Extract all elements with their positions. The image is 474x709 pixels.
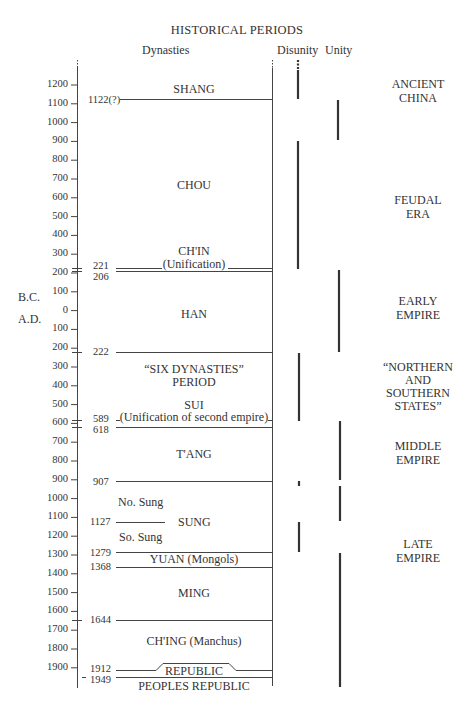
axis-tick-label: 400 — [32, 379, 68, 390]
dynasty-han: HAN — [144, 307, 244, 322]
axis-tick-label: 1200 — [32, 78, 68, 89]
year-206: 206 — [93, 271, 109, 282]
axis-tick-label: 600 — [32, 191, 68, 202]
year-1644: 1644 — [90, 614, 111, 625]
year-1912: 1912 — [90, 663, 111, 674]
dynasty-peoples-republic: PEOPLES REPUBLIC — [134, 679, 254, 694]
axis-tick-label: 1100 — [32, 510, 68, 521]
bc-label: B.C. — [18, 290, 40, 305]
era-ancient-china: ANCIENTCHINA — [368, 77, 468, 105]
axis-tick-label: 1600 — [32, 604, 68, 615]
dynasty-sung: SUNG — [178, 515, 211, 530]
year-1368: 1368 — [90, 561, 111, 572]
axis-tick-label: 700 — [32, 435, 68, 446]
axis-tick-label: 200 — [32, 266, 68, 277]
year-222: 222 — [93, 346, 109, 357]
year-907: 907 — [93, 476, 109, 487]
axis-tick-label: 500 — [32, 210, 68, 221]
axis-tick-label: 200 — [32, 341, 68, 352]
dynasty-yuan: YUAN (Mongols) — [134, 552, 254, 567]
era-late-empire: LATEEMPIRE — [368, 537, 468, 565]
dynasty-chou: CHOU — [144, 178, 244, 193]
axis-tick-label: 1300 — [32, 548, 68, 559]
axis-tick-label: 500 — [32, 398, 68, 409]
axis-tick-label: 1800 — [32, 642, 68, 653]
axis-tick-label: 600 — [32, 416, 68, 427]
axis-tick-label: 1100 — [32, 97, 68, 108]
dynasty-ming: MING — [144, 586, 244, 601]
era-northern-southern-states: “NORTHERNAND SOUTHERNSTATES” — [368, 361, 468, 413]
year-618: 618 — [93, 424, 109, 435]
dynasty-republic: REPUBLIC — [144, 664, 244, 679]
axis-tick-label: 800 — [32, 153, 68, 164]
axis-tick-label: 800 — [32, 454, 68, 465]
dynasty-chin-note: (Unification) — [144, 257, 244, 272]
ad-label: A.D. — [18, 312, 41, 327]
dynasty-no-sung: No. Sung — [118, 495, 163, 510]
era-feudal: FEUDALERA — [368, 193, 468, 221]
axis-tick-label: 1900 — [32, 661, 68, 672]
dynasty-so-sung: So. Sung — [119, 530, 162, 545]
axis-tick-label: 1000 — [32, 492, 68, 503]
year-1122: 1122(?) — [88, 94, 120, 105]
year-589: 589 — [93, 413, 109, 424]
axis-tick-label: 900 — [32, 134, 68, 145]
axis-tick-label: 400 — [32, 228, 68, 239]
axis-tick-label: 700 — [32, 172, 68, 183]
axis-tick-label: 1200 — [32, 529, 68, 540]
era-middle-empire: MIDDLEEMPIRE — [368, 439, 468, 467]
dynasty-shang: SHANG — [144, 82, 244, 97]
era-early-empire: EARLYEMPIRE — [368, 294, 468, 322]
timeline-lines — [0, 0, 474, 709]
dynasty-six-dynasties-period: PERIOD — [144, 375, 244, 390]
axis-tick-label: 300 — [32, 247, 68, 258]
axis-tick-label: 1500 — [32, 586, 68, 597]
year-1949: 1949 — [90, 674, 111, 685]
year-1279: 1279 — [90, 547, 111, 558]
axis-tick-label: 1700 — [32, 623, 68, 634]
axis-tick-label: 900 — [32, 473, 68, 484]
dynasty-ching: CH'ING (Manchus) — [134, 634, 254, 649]
axis-tick-label: 1400 — [32, 567, 68, 578]
year-221: 221 — [93, 260, 109, 271]
dynasty-tang: T'ANG — [144, 447, 244, 462]
axis-tick-label: 300 — [32, 360, 68, 371]
dynasty-sui-note: (Unification of second empire) — [114, 410, 274, 425]
year-1127: 1127 — [90, 516, 111, 527]
axis-tick-label: 1000 — [32, 116, 68, 127]
